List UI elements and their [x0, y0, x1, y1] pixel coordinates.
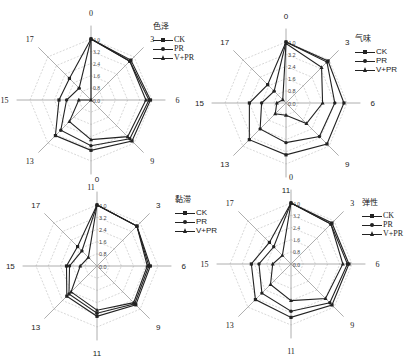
axis-category-label: 15: [200, 260, 208, 269]
data-point: [325, 60, 328, 63]
axis-category-label: 6: [376, 260, 380, 269]
square-marker-icon: [175, 209, 195, 217]
radial-tick-label: 1.6: [293, 237, 300, 243]
legend-item-vpr: V+PR: [355, 65, 397, 74]
data-point: [250, 262, 253, 265]
series-line: [259, 203, 347, 311]
radial-tick-label: 2.4: [288, 64, 296, 70]
radial-tick-label: 3.2: [293, 213, 300, 219]
data-point: [260, 291, 263, 294]
radar-panel-odor: 0369111315170.00.81.62.43.24.0 气味 CK PR …: [205, 0, 410, 181]
radial-tick-label: 0.0: [93, 98, 100, 104]
circle-marker-icon: [175, 218, 195, 226]
axis-category-label: 6: [181, 262, 186, 271]
data-point: [80, 249, 83, 252]
data-point: [248, 101, 251, 104]
radar-panel-elasticity: 0369111315170.00.81.62.43.24.0 弹性 CK PR …: [205, 181, 410, 362]
radial-tick-label: 0.8: [288, 88, 296, 94]
radial-tick-label: 3.2: [93, 49, 100, 55]
data-point: [54, 134, 57, 137]
radar-panel-color: 0369111315170.00.81.62.43.24.0 色泽 CK PR …: [0, 0, 205, 181]
axis-category-label: 17: [226, 199, 234, 208]
data-point: [268, 241, 271, 244]
data-point: [342, 101, 345, 104]
legend-title: 弹性: [362, 198, 403, 208]
axis-category-label: 15: [195, 99, 204, 108]
data-point: [95, 315, 98, 318]
axis-category-label: 15: [6, 262, 15, 271]
legend: 色泽 CK PR V+PR: [153, 22, 194, 62]
data-point: [57, 98, 60, 101]
legend-item-vpr: V+PR: [153, 53, 194, 62]
axis-category-label: 9: [350, 321, 354, 330]
data-point: [260, 101, 263, 104]
axis-category-label: 6: [176, 96, 180, 105]
axis-category-label: 9: [345, 160, 350, 169]
data-point: [318, 135, 321, 138]
series-line: [55, 39, 150, 150]
radial-tick-label: 2.4: [99, 227, 107, 233]
data-point: [258, 127, 261, 130]
circle-marker-icon: [355, 57, 375, 65]
data-point: [89, 144, 92, 147]
legend-item-vpr: V+PR: [362, 229, 403, 238]
series-line: [71, 205, 147, 310]
radial-tick-label: 0.8: [99, 251, 107, 257]
data-point: [254, 298, 257, 301]
circle-marker-icon: [362, 221, 382, 229]
radar-panel-viscosity: 0369111315170.00.81.62.43.24.0 黏滞 CK PR …: [0, 181, 205, 362]
axis-category-label: 3: [345, 38, 350, 47]
data-point: [257, 262, 260, 265]
radial-tick-label: 0.8: [93, 85, 100, 91]
data-point: [77, 86, 80, 89]
radial-tick-label: 2.4: [93, 61, 100, 67]
axis-category-label: 3: [156, 201, 161, 210]
data-point: [65, 98, 68, 101]
triangle-marker-icon: [175, 227, 195, 235]
data-point: [147, 98, 150, 101]
square-marker-icon: [153, 36, 173, 44]
radar-chart: 0369111315170.00.81.62.43.24.0: [205, 0, 411, 181]
series-line: [271, 203, 343, 301]
axis-category-label: 0: [95, 175, 100, 184]
axis-category-label: 6: [370, 99, 375, 108]
data-point: [266, 83, 269, 86]
data-point: [333, 101, 336, 104]
triangle-marker-icon: [362, 230, 382, 238]
axis-category-label: 9: [156, 323, 161, 332]
data-point: [65, 264, 68, 267]
axis-category-label: 0: [89, 9, 93, 18]
data-point: [325, 142, 328, 145]
legend: 气味 CK PR V+PR: [355, 34, 397, 74]
radial-tick-label: 3.2: [288, 52, 296, 58]
axis-category-label: 17: [220, 38, 229, 47]
data-point: [289, 316, 292, 319]
axis-category-label: 17: [31, 201, 40, 210]
axis-category-label: 13: [31, 323, 40, 332]
legend: 弹性 CK PR V+PR: [362, 198, 403, 238]
axis-category-label: 3: [350, 199, 354, 208]
data-point: [284, 141, 287, 144]
data-point: [68, 77, 71, 80]
data-point: [248, 138, 251, 141]
radial-tick-label: 0.0: [288, 101, 296, 107]
axis-category-label: 0: [284, 12, 289, 21]
axis-category-label: 0: [289, 173, 293, 182]
axis-category-label: 15: [0, 96, 8, 105]
series-line: [69, 39, 145, 140]
axis-category-label: 11: [93, 349, 102, 358]
radial-tick-label: 0.0: [99, 264, 107, 270]
legend-title: 色泽: [153, 22, 194, 32]
data-point: [289, 310, 292, 313]
data-point: [346, 262, 349, 265]
axis-category-label: 9: [150, 157, 154, 166]
data-point: [272, 245, 275, 248]
triangle-marker-icon: [153, 54, 173, 62]
axis-category-label: 11: [287, 347, 295, 356]
series-line: [260, 42, 335, 143]
data-point: [59, 128, 62, 131]
data-point: [89, 149, 92, 152]
data-point: [95, 312, 98, 315]
data-point: [328, 301, 331, 304]
data-point: [272, 89, 275, 92]
